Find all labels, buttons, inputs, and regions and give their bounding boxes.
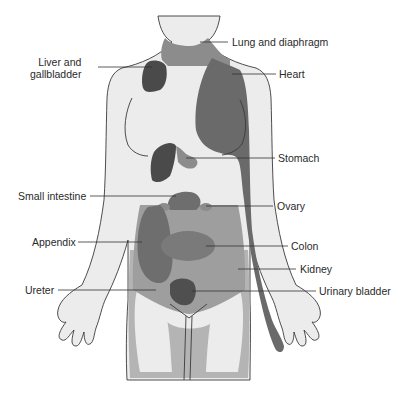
label-ovary: Ovary <box>277 200 305 212</box>
label-heart: Heart <box>279 68 305 80</box>
label-urinary-bladder: Urinary bladder <box>319 285 391 297</box>
label-colon: Colon <box>291 240 318 252</box>
label-lung-diaphragm: Lung and diaphragm <box>232 36 328 48</box>
label-small-intestine: Small intestine <box>18 190 86 202</box>
ovary-right <box>200 203 212 211</box>
label-liver-gallbladder: Liver and gallbladder <box>30 56 81 80</box>
label-liver-line1: Liver and <box>30 56 81 68</box>
label-liver-line2: gallbladder <box>30 68 81 80</box>
label-kidney: Kidney <box>300 263 332 275</box>
label-ureter: Ureter <box>25 284 54 296</box>
label-appendix: Appendix <box>32 236 76 248</box>
label-stomach: Stomach <box>278 152 319 164</box>
